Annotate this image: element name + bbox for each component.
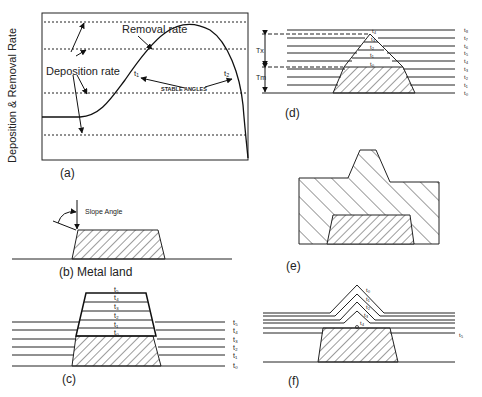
t2-label: t₂ (224, 69, 229, 78)
tm-label: Tm (256, 74, 266, 81)
metal-land-shape (318, 328, 398, 362)
metal-land-shape (72, 336, 161, 366)
metal-land-shape (333, 67, 415, 93)
side-label-t5: t₅ (233, 319, 238, 326)
stack-label-t1: t₁ (114, 321, 119, 328)
side-label-t0: t₀ (233, 362, 238, 369)
slope-angle-label: Slope Angle (85, 208, 122, 216)
side-label-t7: t₇ (464, 35, 468, 41)
stack-label-t1: t₁ (366, 296, 370, 302)
stack-label-t3: t₃ (364, 312, 369, 318)
panel-f-peaked-layers: t₀ t₁ t₂ t₃ t₄ t₅ (f) (263, 285, 464, 388)
caption-f: (f) (288, 374, 299, 388)
side-label-t4: t₄ (464, 58, 469, 64)
stack-label-t2: t₂ (114, 312, 119, 319)
side-label-t0: t₀ (464, 90, 469, 96)
panel-a-chart: Deposition & Removal Rate Removal rate D… (6, 13, 248, 180)
side-label-t8: t₈ (464, 27, 469, 33)
stack-label-t0: t₀ (366, 287, 371, 293)
side-label-t6: t₆ (464, 43, 469, 49)
deposition-rate-label: Deposition rate (46, 65, 120, 77)
figure-canvas: Deposition & Removal Rate Removal rate D… (0, 0, 482, 397)
angle-arc (58, 212, 76, 223)
side-label-t1: t₁ (233, 352, 238, 359)
panel-e-planarized-film: (e) (286, 150, 439, 273)
stack-label-t0: t₀ (114, 329, 119, 336)
removal-rate-label: Removal rate (122, 23, 187, 35)
y-axis-label: Deposition & Removal Rate (6, 28, 18, 163)
slope-line (53, 221, 76, 230)
removal-rate-curve (42, 24, 248, 158)
stack-label-t2: t₂ (370, 44, 375, 50)
panel-c-conformal-layers: t₀ t₁ t₂ t₃ t₄ t₅ t₅ t₄ t₃ t₂ t₁ t₀ (c) (12, 286, 238, 386)
side-label-t3: t₃ (464, 66, 469, 72)
stable-angles-label: STABLE ANGLES (161, 86, 207, 92)
dashed-guides (262, 34, 369, 67)
side-label-t4: t₄ (233, 327, 238, 334)
metal-land-shape (327, 215, 414, 244)
metal-land-shape (72, 230, 165, 259)
stack-label-t3: t₃ (114, 303, 119, 310)
stack-label-t4: t₄ (114, 294, 119, 301)
side-label-t3: t₃ (233, 336, 238, 343)
caption-d: (d) (285, 106, 300, 120)
panel-b-metal-land: Slope Angle (b) Metal land (12, 200, 232, 279)
caption-c: (c) (62, 372, 76, 386)
side-label-t5: t₅ (464, 50, 469, 56)
caption-b: (b) Metal land (59, 265, 132, 279)
side-label-t2: t₂ (233, 344, 238, 351)
side-label-t5: t₅ (459, 332, 464, 338)
stack-label-t1: t₁ (370, 52, 374, 58)
chart-frame (42, 13, 248, 160)
tx-label: Tx (256, 47, 264, 54)
stack-label-t4: t₄ (360, 320, 365, 326)
stack-label-t5: t₅ (114, 286, 119, 293)
deposition-arrows (71, 23, 232, 133)
stack-label-t3: t₃ (371, 36, 376, 42)
caption-e: (e) (286, 259, 301, 273)
t1-label: t₁ (134, 69, 139, 78)
side-label-t1: t₁ (464, 82, 468, 88)
stack-label-t4: t₄ (372, 28, 377, 34)
side-label-t2: t₂ (464, 74, 469, 80)
stack-label-t2: t₂ (366, 304, 371, 310)
caption-a: (a) (60, 166, 75, 180)
panel-d-planarizing-layers: Tx Tm t₀ t₁ t₂ t₃ t₄ t₈ t₇ t₆ t₅ t₄ t₃ t… (256, 27, 469, 120)
stack-label-t0: t₀ (370, 61, 375, 67)
